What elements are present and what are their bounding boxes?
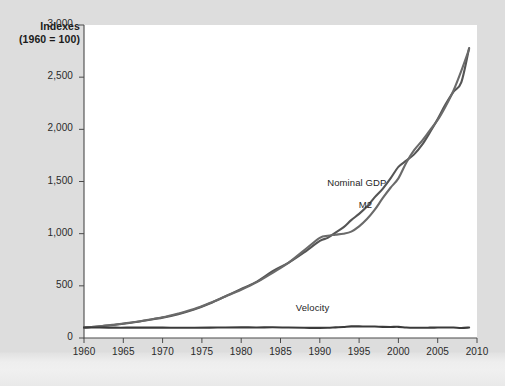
x-tick-label: 2010 — [454, 346, 500, 357]
plot-background — [84, 25, 477, 338]
series-label-velocity: Velocity — [296, 302, 330, 313]
plot-area — [0, 0, 505, 386]
y-tick-label: 0 — [29, 331, 73, 342]
chart-figure: Indexes(1960 = 100) 05001,0001,5002,0002… — [0, 0, 505, 386]
y-tick-label: 2,000 — [29, 122, 73, 133]
y-tick-label: 1,500 — [29, 175, 73, 186]
series-label-nominal-gdp: Nominal GDP — [327, 177, 386, 188]
y-tick-label: 1,000 — [29, 227, 73, 238]
y-tick-label: 500 — [29, 279, 73, 290]
y-tick-label: 2,500 — [29, 70, 73, 81]
y-tick-label: 3,000 — [29, 18, 73, 29]
series-label-m2: M2 — [359, 199, 372, 210]
